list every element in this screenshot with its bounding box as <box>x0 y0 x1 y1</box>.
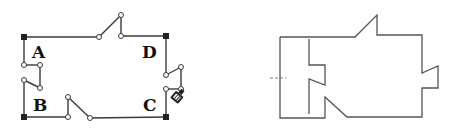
switch-node[interactable] <box>119 13 124 18</box>
switch-node[interactable] <box>88 116 93 121</box>
switch-node[interactable] <box>38 86 43 91</box>
switch-node[interactable] <box>38 63 43 68</box>
label-c: C <box>143 95 157 115</box>
inner-wall <box>309 39 325 114</box>
bottom-switch-arm <box>68 97 90 118</box>
left-diagram: A D B C <box>21 13 187 121</box>
room-outline <box>280 15 438 118</box>
switch-node[interactable] <box>22 63 27 68</box>
switch-node[interactable] <box>22 78 27 83</box>
right-diagram <box>270 15 438 118</box>
corner-node-bottom-left[interactable] <box>21 114 27 120</box>
bottom-wire-right <box>90 117 166 118</box>
label-b: B <box>33 95 47 115</box>
switch-node[interactable] <box>164 87 169 92</box>
switch-node[interactable] <box>164 73 169 78</box>
switch-node[interactable] <box>179 65 184 70</box>
top-switch-arm <box>99 15 121 37</box>
switch-node[interactable] <box>66 115 71 120</box>
corner-node-bottom-right[interactable] <box>163 114 169 120</box>
diagram-canvas: A D B C <box>0 0 462 137</box>
corner-node-top-left[interactable] <box>21 34 27 40</box>
corner-node-top-right[interactable] <box>163 33 169 39</box>
switch-node[interactable] <box>97 35 102 40</box>
switch-node[interactable] <box>66 95 71 100</box>
label-d: D <box>142 42 157 62</box>
switch-node[interactable] <box>119 34 124 39</box>
label-a: A <box>31 42 46 62</box>
